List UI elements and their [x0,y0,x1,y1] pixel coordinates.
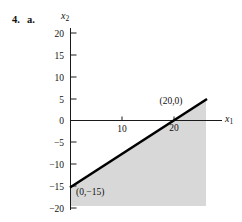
y-tick-label: −15 [36,182,64,192]
y-axis-label: x2 [61,10,69,23]
y-tick-label: 5 [36,95,64,105]
exercise-figure: 4. a. x2 x1 20 15 10 5 0 −5 [0,0,242,222]
y-tick-label: −5 [36,138,64,148]
y-axis-label-subscript: 2 [65,14,69,23]
y-tick-label: 10 [36,73,64,83]
y-tick-label: 15 [36,51,64,61]
y-intercept-annotation: (0,−15) [76,187,104,197]
y-tick-label: −10 [36,160,64,170]
x-axis-label-subscript: 1 [229,117,233,126]
x-tick-label: 10 [114,124,130,134]
x-intercept-annotation: (20,0) [149,96,193,106]
y-tick-label: 0 [36,116,64,126]
y-tick-label: 20 [36,29,64,39]
y-tick-label: −20 [36,204,64,214]
x-tick-label: 20 [166,123,182,133]
x-axis-label: x1 [225,113,233,126]
